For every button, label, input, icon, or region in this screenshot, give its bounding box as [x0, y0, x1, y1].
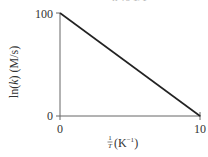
line-chart: 100 0 0 10 1 T (K−1) ln(k) (M/s) [0, 0, 208, 157]
x-axis-label: 1 T (K−1) [108, 134, 139, 150]
x-tick-label-left: 0 [57, 122, 63, 136]
data-line [60, 13, 200, 116]
x-label-frac-den: T [108, 142, 113, 150]
x-label-frac-num: 1 [108, 134, 112, 142]
y-tick-label-bottom: 0 [47, 109, 53, 123]
x-tick-label-right: 10 [194, 122, 206, 136]
y-axis-label: ln(k) (M/s) [7, 46, 21, 98]
y-tick-label-top: 100 [35, 7, 53, 21]
clipped-title-fragment: k vs 1/T [112, 0, 148, 3]
x-label-unit: (K−1) [114, 136, 138, 150]
